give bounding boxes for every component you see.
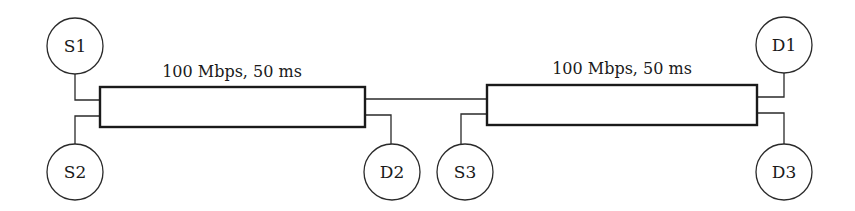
node-d1-label: D1 [772, 35, 796, 55]
node-s2-label: S2 [64, 162, 86, 182]
node-s3-label: S3 [454, 162, 476, 182]
node-s1-label: S1 [64, 36, 86, 56]
link-2-label: 100 Mbps, 50 ms [552, 59, 692, 78]
wire-link1-d2 [365, 115, 391, 144]
node-d2: D2 [364, 144, 420, 200]
node-s1: S1 [47, 18, 103, 74]
wire-s2-link1 [75, 116, 100, 144]
network-diagram: 100 Mbps, 50 ms 100 Mbps, 50 ms S1 S2 S3… [0, 0, 855, 211]
node-s2: S2 [47, 144, 103, 200]
wire-s3-link2 [461, 114, 487, 144]
link-2: 100 Mbps, 50 ms [487, 59, 757, 125]
node-d1: D1 [756, 17, 812, 73]
wire-link2-d1 [757, 73, 784, 97]
node-d3-label: D3 [772, 162, 796, 182]
link-2-box [487, 85, 757, 125]
link-1-box [100, 87, 365, 127]
link-1: 100 Mbps, 50 ms [100, 62, 365, 127]
node-d2-label: D2 [380, 162, 404, 182]
link-1-label: 100 Mbps, 50 ms [162, 62, 302, 81]
node-s3: S3 [437, 144, 493, 200]
wire-link2-d3 [757, 113, 784, 144]
wire-s1-link1 [75, 74, 100, 100]
node-d3: D3 [756, 144, 812, 200]
